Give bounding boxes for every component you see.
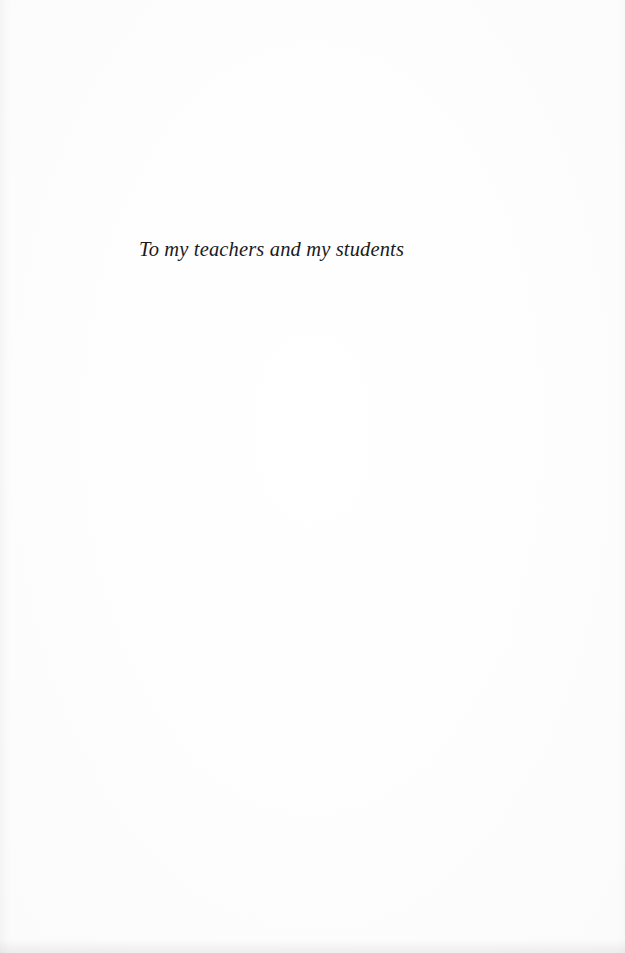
dedication-text: To my teachers and my students — [139, 236, 439, 262]
scan-right-edge-shadow — [618, 0, 625, 953]
scan-gutter-shadow — [0, 0, 10, 953]
paper-texture-overlay — [0, 0, 625, 953]
scanned-book-page: To my teachers and my students — [0, 0, 625, 953]
scan-bottom-edge-artifact — [0, 939, 625, 953]
dedication-block: To my teachers and my students — [139, 236, 439, 262]
